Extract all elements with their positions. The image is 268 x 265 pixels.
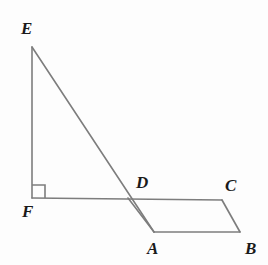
segment-BC — [222, 200, 240, 232]
segments-group — [32, 47, 240, 232]
vertex-label-D: D — [136, 174, 148, 191]
vertex-label-B: B — [245, 240, 256, 257]
geometry-canvas — [0, 0, 268, 265]
segment-FC — [32, 198, 222, 200]
vertex-label-F: F — [22, 203, 33, 220]
vertex-label-C: C — [225, 177, 236, 194]
segment-EA — [32, 47, 154, 232]
segment-DA — [128, 198, 154, 232]
vertex-label-A: A — [147, 240, 158, 257]
vertex-label-E: E — [21, 20, 32, 37]
right-angle-marker-icon — [32, 185, 45, 198]
geometry-figure: E F A B C D — [0, 0, 268, 265]
